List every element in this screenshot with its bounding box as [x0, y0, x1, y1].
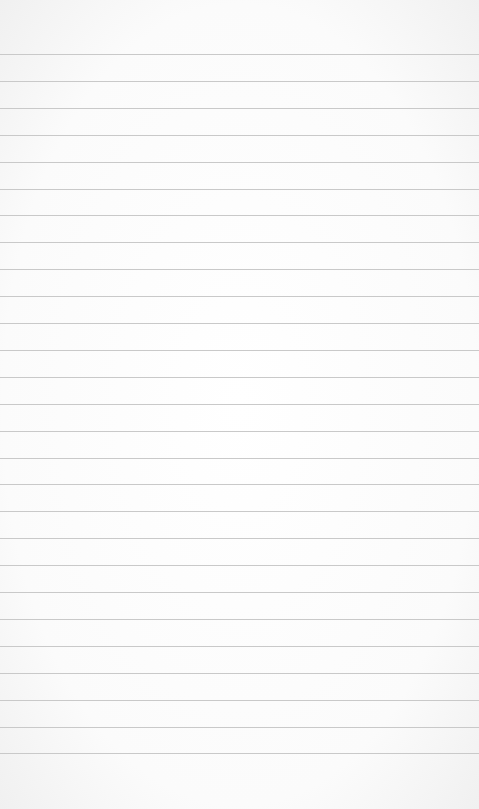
- ruled-line: [0, 404, 479, 405]
- ruled-line: [0, 431, 479, 432]
- ruled-line: [0, 108, 479, 109]
- ruled-line: [0, 323, 479, 324]
- ruled-line: [0, 673, 479, 674]
- ruled-line: [0, 350, 479, 351]
- ruled-line: [0, 135, 479, 136]
- ruled-line: [0, 162, 479, 163]
- ruled-line: [0, 215, 479, 216]
- ruled-line: [0, 81, 479, 82]
- ruled-line: [0, 538, 479, 539]
- ruled-line: [0, 700, 479, 701]
- ruled-line: [0, 727, 479, 728]
- ruled-line: [0, 189, 479, 190]
- ruled-line: [0, 484, 479, 485]
- ruled-line: [0, 592, 479, 593]
- ruled-line: [0, 458, 479, 459]
- ruled-line: [0, 753, 479, 754]
- ruled-line: [0, 646, 479, 647]
- ruled-line: [0, 619, 479, 620]
- ruled-line: [0, 565, 479, 566]
- ruled-line: [0, 377, 479, 378]
- ruled-line: [0, 296, 479, 297]
- ruled-line: [0, 269, 479, 270]
- ruled-line: [0, 54, 479, 55]
- ruled-line: [0, 242, 479, 243]
- ruled-line: [0, 511, 479, 512]
- notepad-page: [0, 0, 479, 809]
